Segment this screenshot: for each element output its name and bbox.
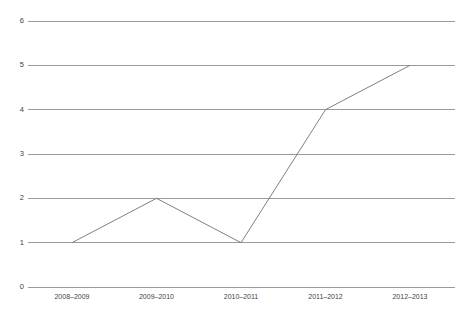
y-axis-tick-label: 1 [0, 239, 24, 247]
x-axis-tick-label: 2008–2009 [54, 293, 89, 300]
y-axis-tick-label: 4 [0, 106, 24, 114]
y-axis-tick-label: 5 [0, 62, 24, 70]
y-axis-tick-label: 3 [0, 150, 24, 158]
x-axis-tick-label: 2009–2010 [139, 293, 174, 300]
chart-plot-area [0, 0, 471, 322]
y-axis-tick-label: 2 [0, 195, 24, 203]
gridlines-group [28, 21, 455, 287]
y-axis-tick-label: 6 [0, 17, 24, 25]
x-axis-tick-label: 2012–2013 [392, 293, 427, 300]
x-axis-tick-label: 2011–2012 [308, 293, 343, 300]
x-axis-tick-label: 2010–2011 [224, 293, 259, 300]
line-chart: 0123456 2008–20092009–20102010–20112011–… [0, 0, 471, 322]
y-axis-tick-label: 0 [0, 283, 24, 291]
